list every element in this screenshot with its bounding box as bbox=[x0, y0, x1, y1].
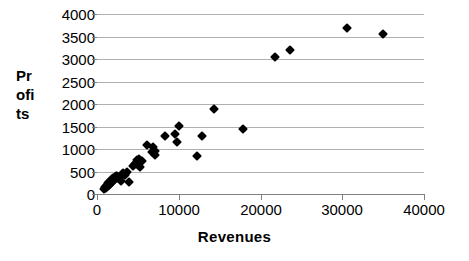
x-tickmark-40000 bbox=[424, 195, 425, 200]
y-tick-label-4000: 4000 bbox=[40, 7, 95, 22]
x-tick-label-30000: 30000 bbox=[321, 202, 363, 218]
y-tick-label-500: 500 bbox=[40, 165, 95, 180]
y-axis-tick-labels: 05001000150020002500300035004000 bbox=[40, 0, 95, 261]
scatter-chart: Pr ofi ts 050010001500200025003000350040… bbox=[0, 0, 469, 261]
y-tick-label-3500: 3500 bbox=[40, 30, 95, 45]
y-tickmark-3000 bbox=[92, 59, 97, 60]
gridline-y-500 bbox=[97, 172, 424, 173]
x-tick-label-10000: 10000 bbox=[158, 202, 200, 218]
x-tickmark-30000 bbox=[342, 195, 343, 200]
y-tickmark-4000 bbox=[92, 14, 97, 15]
gridline-y-3500 bbox=[97, 37, 424, 38]
y-tickmark-500 bbox=[92, 172, 97, 173]
x-tick-label-0: 0 bbox=[93, 202, 101, 218]
y-tick-label-1000: 1000 bbox=[40, 142, 95, 157]
y-tick-label-2500: 2500 bbox=[40, 75, 95, 90]
data-point bbox=[209, 104, 219, 114]
y-tickmark-2000 bbox=[92, 104, 97, 105]
data-point bbox=[172, 138, 182, 148]
x-tick-label-20000: 20000 bbox=[240, 202, 282, 218]
x-tickmark-0 bbox=[97, 195, 98, 200]
y-tickmark-1500 bbox=[92, 127, 97, 128]
y-tickmark-2500 bbox=[92, 82, 97, 83]
y-tickmark-3500 bbox=[92, 37, 97, 38]
x-tickmark-20000 bbox=[261, 195, 262, 200]
gridline-y-4000 bbox=[97, 14, 424, 15]
y-tick-label-1500: 1500 bbox=[40, 120, 95, 135]
data-point bbox=[342, 23, 352, 33]
y-tick-label-0: 0 bbox=[40, 187, 95, 202]
x-tickmark-10000 bbox=[179, 195, 180, 200]
data-point bbox=[198, 131, 208, 141]
y-tick-label-2000: 2000 bbox=[40, 97, 95, 112]
gridline-y-2000 bbox=[97, 104, 424, 105]
plot-area bbox=[97, 14, 424, 194]
gridline-y-1500 bbox=[97, 127, 424, 128]
gridline-y-2500 bbox=[97, 82, 424, 83]
data-point bbox=[285, 45, 295, 55]
data-point bbox=[238, 124, 248, 134]
gridline-y-3000 bbox=[97, 59, 424, 60]
data-point bbox=[192, 151, 202, 161]
y-tick-label-3000: 3000 bbox=[40, 52, 95, 67]
x-tick-label-40000: 40000 bbox=[403, 202, 445, 218]
data-point bbox=[160, 131, 170, 141]
x-axis-title: Revenues bbox=[0, 228, 469, 245]
y-tickmark-1000 bbox=[92, 149, 97, 150]
